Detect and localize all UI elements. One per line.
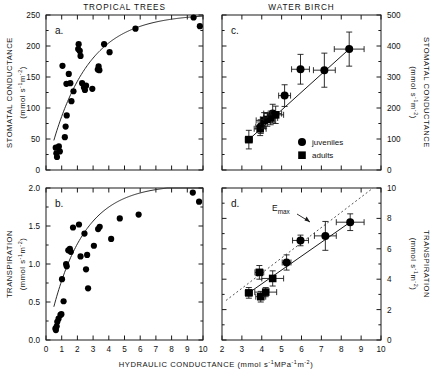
data-point-group — [245, 130, 253, 149]
data-point — [70, 88, 76, 94]
emax-label: Emax — [272, 203, 291, 215]
axis-label-text: TRANSPIRATION — [422, 230, 431, 298]
data-point-adult — [272, 111, 280, 119]
y-tick-label: 100 — [387, 135, 401, 144]
data-point-adult — [245, 136, 253, 144]
panel-frame-a — [46, 15, 203, 170]
x-tick-label: 3 — [91, 345, 96, 354]
data-point-group — [313, 53, 335, 87]
data-point — [68, 249, 74, 255]
axis-label-units: (mmol s-1m-2) — [17, 238, 27, 291]
data-point-group — [314, 221, 336, 250]
y-tick-label: 0 — [35, 166, 40, 175]
scientific-figure: 250200150100500a.2.01.51.00.50.0b.500400… — [0, 0, 433, 379]
y-axis-label-c: STOMATAL CONDUCTANCE(mmol s-1m-2) — [409, 37, 431, 148]
y-axis-label-d: TRANSPIRATION(mmol s-1m-2) — [409, 230, 431, 298]
data-point — [76, 221, 82, 227]
axis-label-units: (mmol s-1m-2) — [409, 66, 419, 119]
data-point-juvenile — [281, 92, 289, 100]
panel-label-c: c. — [231, 25, 239, 36]
axis-label-text: TRANSPIRATION — [5, 230, 14, 298]
data-point-group — [262, 271, 284, 286]
x-tick-label: 5 — [279, 345, 284, 354]
panel-title-left: TROPICAL TREES — [83, 3, 166, 12]
legend-label-adults: adults — [312, 151, 333, 160]
y-tick-label: 250 — [26, 11, 40, 20]
x-tick-label: 10 — [376, 345, 386, 354]
data-point — [64, 263, 70, 269]
y-tick-label: 200 — [387, 104, 401, 113]
y-tick-label: 200 — [26, 42, 40, 51]
data-point-juvenile — [283, 258, 291, 266]
data-point — [83, 266, 89, 272]
data-point — [59, 276, 65, 282]
data-point-juvenile — [321, 232, 329, 240]
data-layer-c — [245, 32, 364, 149]
y-tick-label: 0 — [387, 336, 392, 345]
data-point — [60, 298, 66, 304]
panel-title-right: WATER BIRCH — [268, 3, 334, 12]
legend-label-juveniles: juveniles — [311, 138, 343, 147]
data-point — [89, 86, 95, 92]
legend-marker-juveniles — [298, 138, 306, 146]
y-tick-label: 1.0 — [29, 260, 41, 269]
y-tick-label: 10 — [387, 184, 397, 193]
y-tick-label: 6 — [387, 245, 392, 254]
emax-annotation: Emax — [272, 203, 310, 222]
x-tick-label: 2 — [220, 345, 225, 354]
data-point — [77, 253, 83, 259]
data-point-adult — [269, 275, 277, 283]
data-point-adult — [262, 288, 270, 296]
data-point-juvenile — [346, 218, 354, 226]
legend-marker-adults — [298, 151, 306, 159]
data-layer-b — [52, 188, 203, 333]
axis-label-text: STOMATAL CONDUCTANCE — [5, 37, 14, 148]
data-point — [63, 124, 69, 130]
y-tick-label: 0 — [387, 166, 392, 175]
data-point-group — [336, 214, 364, 231]
panel-frame-d — [222, 188, 381, 340]
data-point-juvenile — [320, 66, 328, 74]
data-point-juvenile — [297, 236, 305, 244]
data-point — [62, 134, 68, 140]
data-point — [197, 23, 203, 29]
data-point — [54, 154, 60, 160]
data-point — [190, 14, 196, 20]
y-tick-label: 8 — [387, 214, 392, 223]
data-point-group — [282, 255, 291, 270]
data-point-group — [245, 288, 253, 299]
y-tick-label: 4 — [387, 275, 392, 284]
data-point — [68, 98, 74, 104]
x-tick-label: 6 — [299, 345, 304, 354]
data-point — [117, 215, 123, 221]
data-point — [76, 41, 82, 47]
x-tick-label: 4 — [107, 345, 112, 354]
y-axis-label-a: STOMATAL CONDUCTANCE(mmol s-1m-2) — [5, 37, 27, 148]
data-point — [67, 80, 73, 86]
data-point — [77, 48, 83, 54]
x-tick-label: 6 — [138, 345, 143, 354]
y-tick-label: 300 — [387, 73, 401, 82]
y-tick-label: 2 — [387, 306, 392, 315]
data-point — [97, 224, 103, 230]
axis-label-units: (mmol s-1m-2) — [409, 238, 419, 291]
fit-curve-a — [54, 16, 203, 140]
panel-label-b: b. — [55, 198, 63, 209]
panel-label-a: a. — [55, 25, 63, 36]
x-tick-label: 9 — [185, 345, 190, 354]
data-point-juvenile — [345, 45, 353, 53]
x-tick-label: 0 — [44, 345, 49, 354]
data-point — [196, 199, 202, 205]
data-point — [190, 189, 196, 195]
figure-container: 250200150100500a.2.01.51.00.50.0b.500400… — [0, 0, 433, 379]
data-point — [58, 311, 64, 317]
data-point-adult — [245, 289, 253, 297]
data-point-group — [292, 54, 310, 84]
data-point — [132, 26, 138, 32]
y-tick-label: 400 — [387, 42, 401, 51]
y-tick-label: 1.5 — [29, 222, 41, 231]
data-layer-d — [226, 188, 373, 302]
panel-d: 1086420d. — [222, 184, 397, 345]
data-point — [91, 243, 97, 249]
data-point-juvenile — [297, 65, 305, 73]
